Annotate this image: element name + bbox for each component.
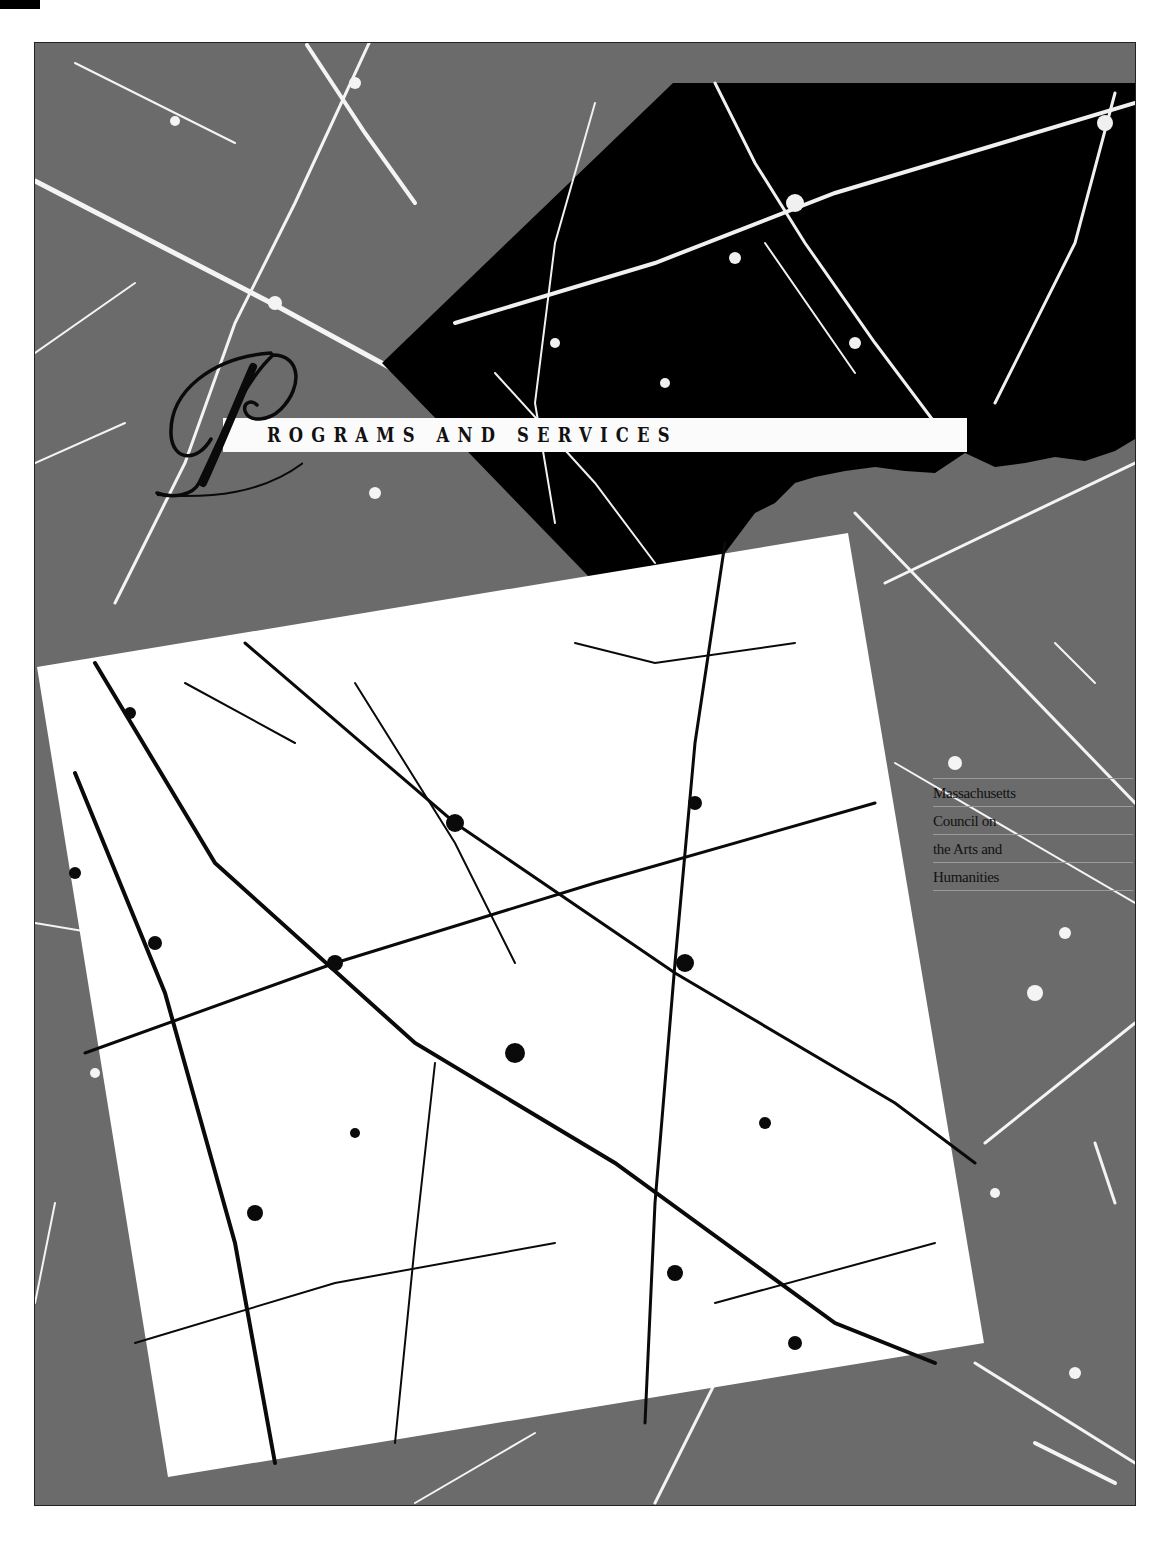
cover-artwork: ROGRAMS AND SERVICES Massachusetts Counc… <box>34 42 1136 1506</box>
organization-line: Massachusetts <box>933 778 1133 806</box>
organization-line: Humanities <box>933 862 1133 891</box>
organization-name-block: Massachusetts Council on the Arts and Hu… <box>933 778 1133 891</box>
page-corner-mark <box>0 0 40 9</box>
page-title: ROGRAMS AND SERVICES <box>267 423 678 447</box>
organization-line: Council on <box>933 806 1133 834</box>
white-panel <box>37 533 984 1477</box>
organization-line: the Arts and <box>933 834 1133 862</box>
cracked-marble-illustration <box>35 43 1135 1505</box>
